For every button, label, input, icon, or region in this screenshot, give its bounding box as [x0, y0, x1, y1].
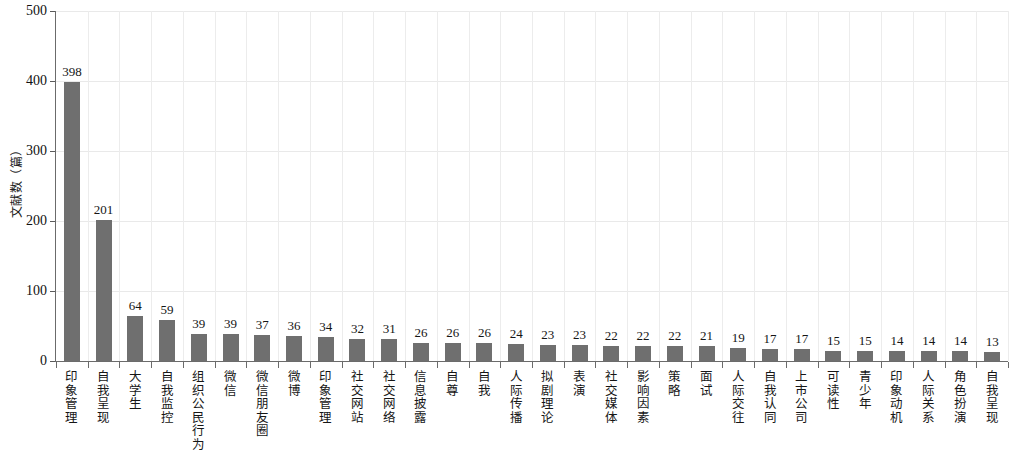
- x-axis-tick-mark: [532, 362, 533, 368]
- x-axis-tick-mark: [722, 362, 723, 368]
- x-axis-tick-mark: [469, 362, 470, 368]
- x-axis-tick-label: 社交媒体: [604, 370, 618, 424]
- gridline-vertical: [373, 11, 374, 361]
- plot-area: 3982016459393937363432312626262423232222…: [56, 11, 1008, 361]
- bar: [984, 352, 1000, 361]
- gridline-vertical: [976, 11, 977, 361]
- x-axis-tick-label: 拟剧理论: [541, 370, 555, 424]
- x-axis-tick-label: 角色扮演: [953, 370, 967, 424]
- bar-value-label: 201: [84, 203, 124, 217]
- x-axis-tick-label: 大学生: [128, 370, 142, 411]
- gridline-vertical: [627, 11, 628, 361]
- gridline-vertical: [754, 11, 755, 361]
- bar: [699, 346, 715, 361]
- y-axis-tick-label: 500: [26, 2, 47, 19]
- x-axis-tick-mark: [405, 362, 406, 368]
- bar: [318, 337, 334, 361]
- gridline-vertical: [564, 11, 565, 361]
- x-axis-tick-label: 社交网站: [350, 370, 364, 424]
- x-axis-tick-mark: [119, 362, 120, 368]
- x-axis-tick-mark: [246, 362, 247, 368]
- gridline-vertical: [532, 11, 533, 361]
- y-axis-tick-label: 300: [26, 142, 47, 159]
- x-axis-tick-mark: [627, 362, 628, 368]
- x-axis-tick-label: 人际交往: [731, 370, 745, 424]
- x-axis-tick-label: 印象动机: [890, 370, 904, 424]
- bar: [476, 343, 492, 361]
- gridline-vertical: [437, 11, 438, 361]
- x-axis-tick-mark: [881, 362, 882, 368]
- x-axis-tick-label: 自尊: [446, 370, 460, 397]
- x-axis-tick-label: 青少年: [858, 370, 872, 411]
- x-axis-tick-mark: [691, 362, 692, 368]
- bar: [445, 343, 461, 361]
- bar: [508, 344, 524, 361]
- x-axis-tick-label: 组织公民行为: [192, 370, 206, 451]
- gridline-vertical: [215, 11, 216, 361]
- bar-value-label: 13: [972, 335, 1012, 349]
- gridline-vertical: [722, 11, 723, 361]
- x-axis-tick-label: 自我呈现: [97, 370, 111, 424]
- bar: [159, 320, 175, 361]
- gridline-vertical: [246, 11, 247, 361]
- x-axis-tick-label: 表演: [573, 370, 587, 397]
- x-axis-tick-label: 人际关系: [922, 370, 936, 424]
- x-axis-tick-label: 微博: [287, 370, 301, 397]
- bar: [64, 82, 80, 361]
- gridline-vertical: [691, 11, 692, 361]
- bar-value-label: 59: [147, 303, 187, 317]
- bar-value-label: 398: [52, 65, 92, 79]
- gridline-vertical: [278, 11, 279, 361]
- x-axis: 印象管理自我呈现大学生自我监控组织公民行为微信微信朋友圈微博印象管理社交网站社交…: [56, 362, 1008, 466]
- gridline-vertical: [469, 11, 470, 361]
- bar: [730, 348, 746, 361]
- x-axis-tick-mark: [437, 362, 438, 368]
- x-axis-tick-mark: [56, 362, 57, 368]
- x-axis-tick-label: 上市公司: [795, 370, 809, 424]
- gridline-vertical: [849, 11, 850, 361]
- x-axis-tick-mark: [913, 362, 914, 368]
- bar: [223, 334, 239, 361]
- y-axis: 0100200300400500: [0, 0, 56, 366]
- gridline-vertical: [88, 11, 89, 361]
- gridline-vertical: [342, 11, 343, 361]
- x-axis-tick-label: 印象管理: [65, 370, 79, 424]
- x-axis-tick-mark: [564, 362, 565, 368]
- x-axis-tick-mark: [278, 362, 279, 368]
- bar: [603, 346, 619, 361]
- bar: [127, 316, 143, 361]
- gridline-vertical: [786, 11, 787, 361]
- x-axis-tick-mark: [754, 362, 755, 368]
- x-axis-tick-label: 印象管理: [319, 370, 333, 424]
- gridline-vertical: [595, 11, 596, 361]
- x-axis-tick-label: 自我监控: [160, 370, 174, 424]
- x-axis-tick-mark: [945, 362, 946, 368]
- bar: [572, 345, 588, 361]
- x-axis-tick-mark: [500, 362, 501, 368]
- x-axis-tick-mark: [151, 362, 152, 368]
- x-axis-tick-mark: [659, 362, 660, 368]
- x-axis-tick-mark: [786, 362, 787, 368]
- gridline-vertical: [659, 11, 660, 361]
- bar: [635, 346, 651, 361]
- bar: [254, 335, 270, 361]
- y-axis-tick-label: 400: [26, 72, 47, 89]
- x-axis-tick-label: 自我认同: [763, 370, 777, 424]
- gridline-vertical: [945, 11, 946, 361]
- x-axis-tick-label: 可读性: [826, 370, 840, 411]
- bar: [286, 336, 302, 361]
- gridline-vertical: [881, 11, 882, 361]
- x-axis-tick-mark: [373, 362, 374, 368]
- x-axis-tick-mark: [183, 362, 184, 368]
- bar: [96, 220, 112, 361]
- x-axis-tick-mark: [310, 362, 311, 368]
- x-axis-tick-label: 信息披露: [414, 370, 428, 424]
- bar-chart: 文献数（篇） 0100200300400500 3982016459393937…: [0, 0, 1015, 466]
- bar: [413, 343, 429, 361]
- bar: [857, 351, 873, 362]
- gridline-vertical: [405, 11, 406, 361]
- x-axis-tick-label: 自我: [477, 370, 491, 397]
- gridline-vertical: [500, 11, 501, 361]
- x-axis-tick-mark: [976, 362, 977, 368]
- x-axis-tick-mark: [595, 362, 596, 368]
